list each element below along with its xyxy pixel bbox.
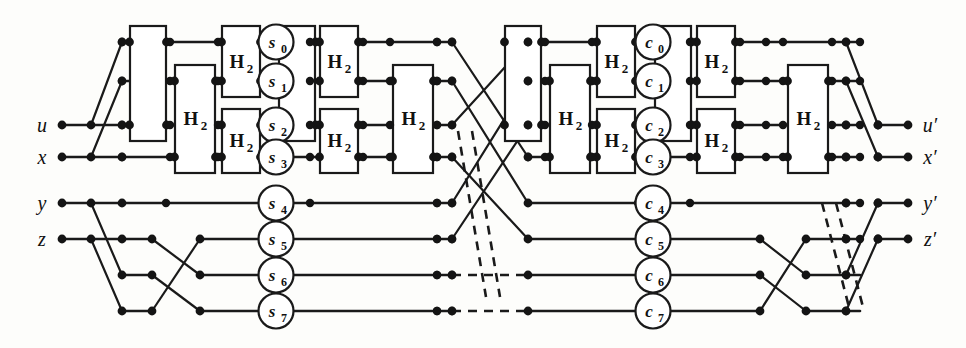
junction-dot bbox=[842, 307, 851, 316]
junction-dot bbox=[315, 77, 324, 86]
junction-dot bbox=[762, 77, 770, 85]
junction-dot bbox=[842, 121, 851, 130]
junction-dot bbox=[448, 199, 457, 208]
junction-dot bbox=[214, 38, 222, 46]
junction-dot bbox=[162, 199, 170, 207]
cell-label-s1: s bbox=[268, 72, 276, 91]
junction-dot bbox=[306, 153, 314, 161]
junction-dot bbox=[433, 307, 441, 315]
cell-c3[interactable] bbox=[636, 140, 671, 175]
junction-dot bbox=[58, 121, 67, 130]
junction-dot bbox=[856, 77, 864, 85]
cell-sublabel-s4: 4 bbox=[281, 203, 287, 217]
input-label-z: z bbox=[37, 228, 46, 250]
cell-label-c7: c bbox=[645, 302, 653, 321]
junction-dot bbox=[779, 153, 787, 161]
junction-dot bbox=[842, 77, 851, 86]
gate-label-L-h4: H bbox=[328, 51, 343, 72]
cell-label-c6: c bbox=[645, 266, 653, 285]
gate-sublabel-L-h6: 2 bbox=[419, 118, 426, 133]
cell-s2[interactable] bbox=[259, 108, 294, 143]
junction-dot bbox=[214, 153, 222, 161]
junction-dot bbox=[874, 235, 883, 244]
junction-dot bbox=[802, 271, 811, 280]
cell-sublabel-s3: 3 bbox=[281, 157, 287, 171]
cell-sublabel-s7: 7 bbox=[281, 311, 287, 325]
junction-dot bbox=[118, 199, 127, 208]
junction-dot bbox=[433, 271, 441, 279]
cell-label-s3: s bbox=[268, 148, 276, 167]
cell-c7[interactable] bbox=[636, 294, 671, 329]
gate-label-R-h6: H bbox=[797, 108, 812, 129]
junction-dot bbox=[359, 38, 367, 46]
cell-sublabel-s5: 5 bbox=[281, 239, 287, 253]
junction-dot bbox=[904, 153, 913, 162]
junction-dot bbox=[118, 77, 126, 85]
junction-dot bbox=[448, 38, 457, 47]
cell-c0[interactable] bbox=[636, 25, 671, 60]
cell-c4[interactable] bbox=[636, 186, 671, 221]
junction-dot bbox=[856, 153, 864, 161]
cell-label-c4: c bbox=[645, 194, 653, 213]
junction-dot bbox=[736, 77, 744, 85]
junction-dot bbox=[433, 235, 441, 243]
swap-box-R-sw1[interactable] bbox=[505, 26, 541, 141]
cell-c6[interactable] bbox=[636, 258, 671, 293]
junction-dot bbox=[359, 153, 367, 161]
junction-dot bbox=[842, 199, 851, 208]
cell-sublabel-s1: 1 bbox=[281, 81, 287, 95]
gate-layer: H2H2H2H2H2H2H2H2H2H2H2H2 bbox=[130, 26, 828, 173]
junction-dot bbox=[541, 38, 549, 46]
junction-dot bbox=[306, 121, 314, 129]
junction-dot bbox=[856, 38, 864, 46]
cell-s4[interactable] bbox=[259, 186, 294, 221]
cell-label-c2: c bbox=[645, 116, 653, 135]
junction-dot bbox=[166, 121, 174, 129]
junction-dot bbox=[524, 38, 532, 46]
junction-dot bbox=[686, 38, 694, 46]
cell-s1[interactable] bbox=[259, 64, 294, 99]
junction-dot bbox=[118, 38, 126, 46]
junction-dot bbox=[386, 121, 394, 129]
junction-dot bbox=[166, 153, 174, 161]
junction-dot bbox=[779, 121, 787, 129]
output-label-z′: z′ bbox=[923, 228, 937, 250]
gate-label-R-h1: H bbox=[559, 108, 574, 129]
cell-s5[interactable] bbox=[259, 222, 294, 257]
junction-dot bbox=[125, 38, 134, 47]
cell-s6[interactable] bbox=[259, 258, 294, 293]
junction-dot bbox=[686, 77, 694, 85]
cell-s0[interactable] bbox=[259, 25, 294, 60]
gate-sublabel-L-h1: 2 bbox=[201, 118, 208, 133]
swap-box-L-sw1[interactable] bbox=[130, 26, 166, 141]
junction-dot bbox=[118, 121, 126, 129]
cell-c5[interactable] bbox=[636, 222, 671, 257]
junction-dot bbox=[148, 271, 157, 280]
gate-label-R-h3: H bbox=[605, 51, 620, 72]
junction-dot bbox=[541, 121, 549, 129]
junction-dot bbox=[524, 199, 533, 208]
cell-label-c1: c bbox=[645, 72, 653, 91]
junction-dot bbox=[736, 38, 744, 46]
junction-dot bbox=[842, 271, 851, 280]
junction-dot bbox=[433, 121, 441, 129]
junction-dot bbox=[541, 77, 549, 85]
cell-s3[interactable] bbox=[259, 140, 294, 175]
junction-dot bbox=[524, 153, 532, 161]
junction-dot bbox=[842, 235, 851, 244]
junction-dot bbox=[214, 121, 222, 129]
cell-c2[interactable] bbox=[636, 108, 671, 143]
gate-sublabel-L-h2: 2 bbox=[247, 140, 254, 155]
junction-dot bbox=[588, 153, 596, 161]
junction-dot bbox=[359, 77, 367, 85]
input-label-y: y bbox=[36, 192, 47, 215]
gate-label-R-h2: H bbox=[605, 130, 620, 151]
cell-sublabel-c7: 7 bbox=[658, 311, 664, 325]
junction-dot bbox=[500, 121, 509, 130]
junction-dot bbox=[762, 38, 770, 46]
fanin-diagonal bbox=[846, 81, 878, 157]
cell-c1[interactable] bbox=[636, 64, 671, 99]
gate-sublabel-R-h5: 2 bbox=[722, 140, 729, 155]
cell-s7[interactable] bbox=[259, 294, 294, 329]
gate-sublabel-R-h3: 2 bbox=[622, 61, 629, 76]
